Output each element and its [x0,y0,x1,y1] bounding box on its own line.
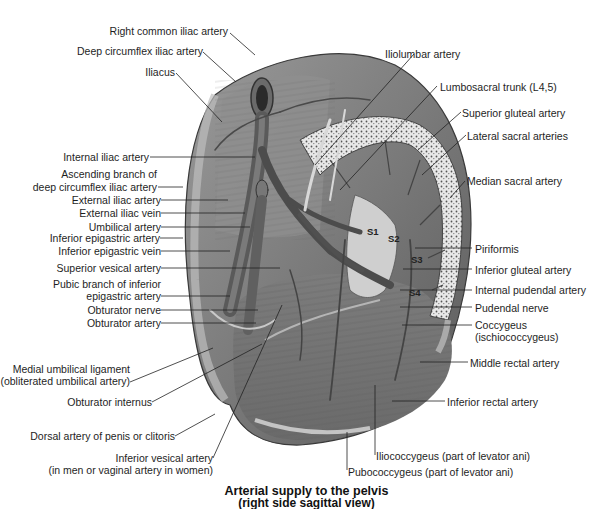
label-right-common-iliac-artery: Right common iliac artery [110,25,228,37]
label-pudendal-nerve: Pudendal nerve [475,302,549,314]
label-lumbosacral-trunk: Lumbosacral trunk (L4,5) [440,81,557,93]
label-dorsal-artery: Dorsal artery of penis or clitoris [30,430,175,442]
label-iliolumbar-artery: Iliolumbar artery [385,48,460,60]
label-coccygeus-line1: Coccygeus [475,319,527,331]
label-middle-rectal-artery: Middle rectal artery [470,357,559,369]
label-inferior-epigastric-artery: Inferior epigastric artery [50,232,160,244]
label-external-iliac-artery: External iliac artery [72,194,161,206]
label-inferior-vesical-line1: Inferior vesical artery [116,452,213,464]
label-internal-iliac-artery: Internal iliac artery [63,151,149,163]
label-external-iliac-vein: External iliac vein [79,207,161,219]
label-internal-pudendal-artery: Internal pudendal artery [475,284,586,296]
label-inferior-vesical-line2: (in men or vaginal artery in women) [48,464,213,476]
label-deep-circumflex-iliac-artery: Deep circumflex iliac artery [77,45,203,57]
label-medial-umbilical-line1: Medial umbilical ligament [13,363,130,375]
label-obturator-internus: Obturator internus [67,396,152,408]
label-pubococcygeus: Pubococcygeus (part of levator ani) [348,466,513,478]
label-ascending-branch-line1: Ascending branch of [61,168,157,180]
label-obturator-artery: Obturator artery [87,317,161,329]
label-medial-umbilical-line2: (obliterated umbilical artery) [0,375,130,387]
sacral-marker-s2: S2 [388,233,400,244]
label-iliococcygeus: Iliococcygeus (part of levator ani) [376,450,530,462]
label-inferior-rectal-artery: Inferior rectal artery [447,396,538,408]
label-pubic-branch-line2: epigastric artery [86,290,161,302]
label-inferior-epigastric-vein: Inferior epigastric vein [58,245,161,257]
label-superior-gluteal-artery: Superior gluteal artery [462,107,565,119]
label-coccygeus-line2: (ischiococcygeus) [475,331,558,343]
sacral-marker-s3: S3 [411,254,423,265]
label-superior-vesical-artery: Superior vesical artery [57,262,161,274]
label-obturator-nerve: Obturator nerve [87,304,161,316]
label-inferior-gluteal-artery: Inferior gluteal artery [475,264,571,276]
pelvic-floor [233,274,452,440]
sacral-marker-s4: S4 [409,287,421,298]
figure-title-line2: (right side sagittal view) [0,497,613,509]
label-iliacus: Iliacus [145,66,175,78]
label-pubic-branch-line1: Pubic branch of inferior [53,278,161,290]
label-ascending-branch-line2: deep circumflex iliac artery [33,181,157,193]
sacral-marker-s1: S1 [367,226,379,237]
label-piriformis: Piriformis [475,243,519,255]
label-lateral-sacral-arteries: Lateral sacral arteries [467,130,568,142]
label-median-sacral-artery: Median sacral artery [467,175,562,187]
